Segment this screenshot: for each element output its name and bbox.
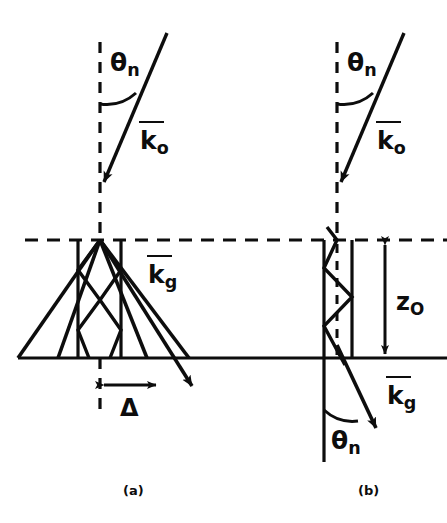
panel-a-theta-n-label: θn (110, 50, 140, 79)
ray-diagram-svg (0, 0, 447, 523)
panel-b-incident-angle-arc (337, 93, 373, 104)
panel-b-theta-n-label: θn (347, 50, 377, 79)
panel-b-z-o-label: zO (396, 290, 424, 318)
panel-b-exit-angle-arc (324, 410, 358, 421)
panel-a-k-o-label: ko (140, 128, 169, 157)
panel-b-k-g-label: kg (387, 383, 416, 412)
panel-a-refracted-ray-kg (100, 240, 192, 386)
panel-a-delta-label: Δ (120, 396, 139, 420)
panel-b-exit-theta-n-label: θn (331, 428, 361, 457)
figure-canvas: θn ko kg Δ (a) θn ko zO kg θn (b) (0, 0, 447, 523)
panel-a-incident-angle-arc (100, 93, 136, 104)
panel-a-k-g-label: kg (148, 262, 177, 291)
panel-b-caption: (b) (358, 484, 379, 497)
panel-b-k-o-label: ko (377, 128, 406, 157)
panel-a-caption: (a) (123, 484, 144, 497)
